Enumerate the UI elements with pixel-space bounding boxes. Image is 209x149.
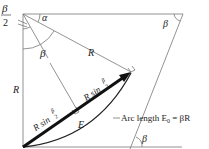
beta-bottom-label: β xyxy=(141,133,147,144)
E-label: E xyxy=(77,119,84,130)
arc-length-label: Arc length E0 = βR xyxy=(121,113,190,124)
radius-label: R xyxy=(87,47,94,58)
beta-half-num: β xyxy=(1,2,8,14)
beta-half-angle-arc xyxy=(23,27,30,29)
alpha-angle-arc xyxy=(38,14,40,22)
chord-left-frac-den: 2 xyxy=(53,113,59,120)
left-radius-label: R xyxy=(12,84,19,95)
beta-angle-arc xyxy=(23,31,54,49)
beta-half-den: 2 xyxy=(3,17,8,28)
tick-mark xyxy=(18,20,27,24)
perpendicular-line xyxy=(50,63,76,108)
geometry-diagram: β 2 α β β R R R sin β 2 R sin β 2 E Arc … xyxy=(0,0,209,149)
beta-center-label: β xyxy=(39,47,46,59)
tick-mark xyxy=(18,24,27,27)
right-diagonal-line xyxy=(130,14,183,149)
alpha-label: α xyxy=(42,12,48,23)
beta-top-right-arc xyxy=(174,14,180,21)
beta-top-right-label: β xyxy=(162,18,168,29)
